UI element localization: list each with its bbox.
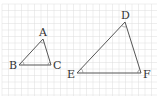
vertex-label-b: B [9,59,17,72]
vertex-label-c: C [53,59,61,72]
vertex-label-d: D [121,9,130,22]
angle-e-marker [81,69,83,73]
similar-triangles-diagram: A B C D E F [0,0,157,98]
vertex-label-e: E [67,68,75,81]
vertex-label-f: F [143,68,151,81]
vertex-label-a: A [38,26,48,39]
angle-b-marker [22,61,24,65]
triangle-abc: A B C [9,26,61,72]
